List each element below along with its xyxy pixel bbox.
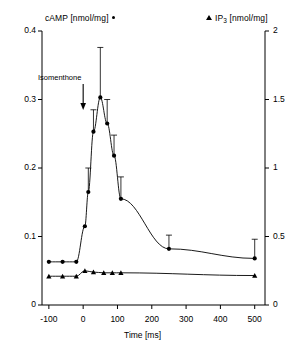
- data-point-camp: [167, 247, 171, 251]
- y-axis-right-tick-label: 0: [273, 299, 278, 309]
- data-point-camp: [105, 121, 109, 125]
- data-point-camp: [83, 224, 87, 228]
- y-axis-right-tick-label: 1.5: [273, 94, 285, 104]
- y-axis-right-tick-label: 0.5: [273, 231, 285, 241]
- series-line-ip3: [49, 271, 255, 276]
- data-point-camp: [74, 260, 78, 264]
- series-line-camp: [49, 97, 255, 261]
- y-axis-left-tick-label: 0: [8, 299, 36, 309]
- y-axis-left-tick-label: 0.3: [8, 94, 36, 104]
- y-axis-right-tick-label: 1: [273, 162, 278, 172]
- y-axis-left-tick-label: 0.4: [8, 25, 36, 35]
- legend-entry-camp: cAMP [nmol/mg]: [45, 13, 115, 23]
- circle-marker-icon: [112, 16, 115, 19]
- legend-label-ip3-prefix: IP: [215, 13, 223, 23]
- y-axis-right-tick-label: 2: [273, 25, 278, 35]
- legend-label-ip3-suffix: [nmol/mg]: [227, 13, 268, 23]
- x-axis-tick-label: 500: [235, 314, 275, 324]
- legend-entry-ip3: IP3 [nmol/mg]: [206, 13, 268, 24]
- y-axis-left-tick-label: 0.1: [8, 231, 36, 241]
- legend-label-camp: cAMP [nmol/mg]: [45, 13, 109, 23]
- data-point-camp: [112, 154, 116, 158]
- data-point-camp: [91, 130, 95, 134]
- isomenthone-annotation-label: Isomenthone: [38, 73, 81, 82]
- chart-figure: [0, 0, 303, 351]
- x-axis-title: Time [ms]: [124, 330, 161, 340]
- data-point-camp: [86, 190, 90, 194]
- isomenthone-arrow-head-icon: [80, 103, 86, 110]
- triangle-marker-icon: [206, 15, 212, 20]
- data-point-camp: [47, 260, 51, 264]
- data-point-camp: [253, 256, 257, 260]
- y-axis-left-tick-label: 0.2: [8, 162, 36, 172]
- data-point-camp: [119, 197, 123, 201]
- data-point-camp: [98, 95, 102, 99]
- data-point-camp: [60, 260, 64, 264]
